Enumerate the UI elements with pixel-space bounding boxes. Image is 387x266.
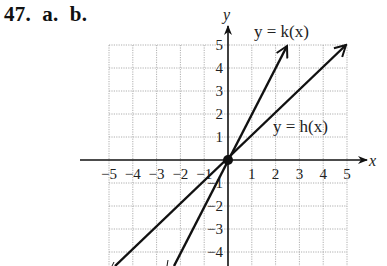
line-h-tail-mark bbox=[112, 262, 114, 266]
x-tick-label: −4 bbox=[125, 166, 141, 182]
x-tick-label: 5 bbox=[343, 166, 351, 182]
y-tick-label: −3 bbox=[207, 221, 223, 237]
coordinate-plane: x y −5−4−3−2−112345 54321−1−2−3−4 y = k(… bbox=[0, 0, 387, 266]
x-tick-label: 1 bbox=[248, 166, 256, 182]
y-tick-label: −2 bbox=[207, 198, 223, 214]
y-tick-label: 4 bbox=[216, 60, 224, 76]
line-h bbox=[115, 45, 346, 266]
k-function-label: y = k(x) bbox=[254, 22, 309, 41]
y-tick-label: 3 bbox=[216, 83, 224, 99]
x-tick-label: −3 bbox=[149, 166, 165, 182]
y-tick-label: 1 bbox=[216, 129, 224, 145]
x-tick-label: −2 bbox=[172, 166, 188, 182]
y-tick-labels: 54321−1−2−3−4 bbox=[207, 37, 223, 260]
y-tick-label: 5 bbox=[216, 37, 224, 53]
line-k-tail-mark bbox=[167, 260, 168, 266]
x-tick-label: 2 bbox=[272, 166, 280, 182]
origin-point bbox=[223, 155, 233, 165]
h-function-label: y = h(x) bbox=[273, 117, 328, 136]
x-axis-label: x bbox=[368, 152, 376, 169]
x-tick-label: −5 bbox=[101, 166, 117, 182]
y-axis-label: y bbox=[221, 6, 231, 24]
x-tick-label: 4 bbox=[319, 166, 327, 182]
x-tick-label: 3 bbox=[296, 166, 304, 182]
x-tick-labels: −5−4−3−2−112345 bbox=[101, 166, 351, 182]
y-tick-label: −4 bbox=[207, 244, 223, 260]
y-tick-label: 2 bbox=[216, 106, 224, 122]
